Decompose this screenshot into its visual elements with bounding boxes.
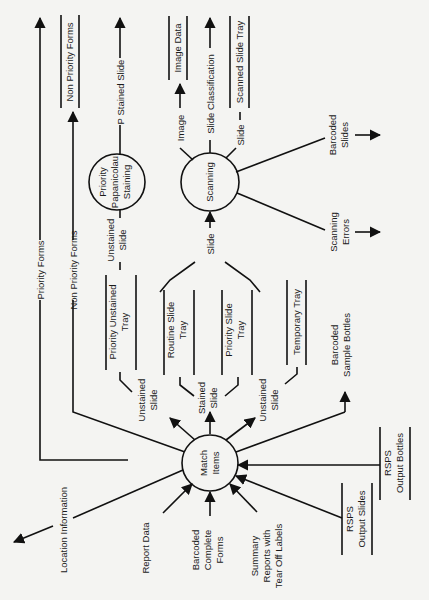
store-image-data: Image Data bbox=[169, 16, 187, 80]
flow-label: Reports with bbox=[261, 530, 272, 583]
flow-label-p-stained-slide: P Stained Slide bbox=[115, 60, 126, 125]
process-label: Items bbox=[210, 451, 221, 474]
store-label: Tray bbox=[119, 312, 130, 331]
flow-barcoded-complete-forms: Barcoded Complete Forms bbox=[190, 492, 225, 570]
flow-slide-to-scanning: Slide bbox=[160, 212, 260, 292]
store-label: Image Data bbox=[172, 23, 183, 73]
flow-label: Sample Bottles bbox=[341, 313, 352, 377]
store-rsps-output-bottles: RSPS Output Bottles bbox=[380, 427, 410, 500]
flow-unstained-slide-to-pap: Unstained Slide bbox=[105, 210, 128, 270]
process-label: Papanicolau bbox=[109, 156, 120, 208]
flow-label: Complete bbox=[202, 530, 213, 571]
store-label: Tray bbox=[177, 320, 188, 339]
flow-label: Slides bbox=[339, 122, 350, 148]
flow-label-report-data: Report Data bbox=[140, 522, 151, 574]
store-non-priority-forms: Non Priority Forms bbox=[61, 15, 79, 108]
store-rsps-output-slides: RSPS Output Slides bbox=[342, 483, 372, 555]
flow-label: Scanning bbox=[328, 212, 339, 252]
process-scanning: Scanning bbox=[181, 153, 239, 211]
store-label: RSPS bbox=[382, 450, 393, 476]
store-label: Output Slides bbox=[356, 490, 367, 547]
flow-label: Unstained bbox=[257, 379, 268, 422]
store-label: Routine Slide bbox=[165, 302, 176, 359]
flow-label-image: Image bbox=[175, 115, 186, 141]
flow-rsps-output-slides bbox=[236, 476, 342, 518]
data-flow-diagram: Priority Forms Non Priority Forms Non Pr… bbox=[0, 0, 429, 600]
process-priority-papanicolau-staining: Priority Papanicolau Staining bbox=[89, 154, 145, 210]
store-priority-unstained-tray: Priority Unstained Tray bbox=[106, 275, 136, 370]
store-temporary-tray: Temporary Tray bbox=[287, 280, 306, 365]
flow-report-data: Report Data bbox=[140, 484, 192, 574]
flow-label: Tear Off Labels bbox=[273, 524, 284, 589]
flow-slide-to-scanned-tray: Slide bbox=[226, 112, 246, 158]
process-label: Match bbox=[198, 450, 209, 476]
store-label: Tray bbox=[235, 320, 246, 339]
flow-slide-classification: Slide Classification bbox=[205, 18, 216, 153]
flow-unstained-slide-1: Unstained Slide bbox=[120, 372, 195, 440]
store-label: Non Priority Forms bbox=[64, 22, 75, 101]
flow-barcoded-slides: Barcoded Slides bbox=[236, 115, 380, 172]
flow-label: Slide bbox=[208, 387, 219, 408]
store-label: Scanned Slide Tray bbox=[234, 21, 245, 104]
flow-location-information: Location Information bbox=[14, 470, 183, 573]
flow-label: Summary bbox=[249, 535, 260, 576]
flow-summary-reports: Summary Reports with Tear Off Labels bbox=[230, 484, 284, 588]
flow-label: Unstained bbox=[105, 219, 116, 262]
flow-label: Errors bbox=[340, 219, 351, 245]
flow-label-slide: Slide bbox=[205, 233, 216, 254]
flow-image: Image bbox=[175, 84, 193, 160]
store-label: RSPS bbox=[344, 506, 355, 532]
store-label: Priority Unstained bbox=[107, 285, 118, 360]
flow-stained-slide: Stained Slide bbox=[180, 377, 238, 434]
flow-label: Barcoded bbox=[329, 325, 340, 366]
flow-label: Barcoded bbox=[327, 115, 338, 156]
flow-label-non-priority-forms: Non Priority Forms bbox=[68, 230, 79, 309]
flow-label-location-information: Location Information bbox=[58, 487, 69, 573]
flow-label: Forms bbox=[214, 536, 225, 563]
flow-label-slide: Slide bbox=[235, 124, 246, 145]
flow-label: Barcoded bbox=[190, 530, 201, 571]
flow-unstained-slide-2: Unstained Slide bbox=[226, 367, 297, 440]
store-label: Temporary Tray bbox=[291, 289, 302, 355]
flow-label: Slide bbox=[269, 389, 280, 410]
process-label: Scanning bbox=[204, 162, 215, 202]
flow-label: Stained bbox=[196, 382, 207, 414]
store-label: Output Bottles bbox=[394, 433, 405, 493]
flow-label: Slide bbox=[117, 229, 128, 250]
flow-label-priority-forms: Priority Forms bbox=[35, 240, 46, 299]
flow-label: Unstained bbox=[136, 379, 147, 422]
store-scanned-slide-tray: Scanned Slide Tray bbox=[230, 16, 249, 108]
store-label: Priority Slide bbox=[223, 303, 234, 356]
flow-p-stained-slide: P Stained Slide bbox=[115, 18, 126, 154]
flow-label-slide-classification: Slide Classification bbox=[205, 54, 216, 134]
flow-label: Slide bbox=[148, 389, 159, 410]
flow-scanning-errors: Scanning Errors bbox=[237, 193, 380, 252]
process-match-items: Match Items bbox=[182, 435, 238, 491]
store-routine-slide-tray: Routine Slide Tray bbox=[164, 290, 194, 375]
process-label: Staining bbox=[121, 165, 132, 199]
store-priority-slide-tray: Priority Slide Tray bbox=[222, 290, 252, 375]
process-label: Priority bbox=[97, 167, 108, 197]
